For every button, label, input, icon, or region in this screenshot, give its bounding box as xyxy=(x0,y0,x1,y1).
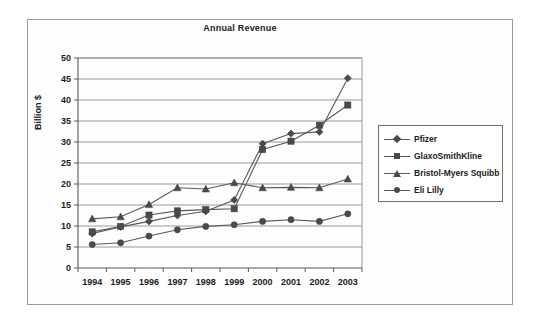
legend-item-eli-lilly[interactable]: Eli Lilly xyxy=(384,183,444,197)
y-tick-labels: 05101520253035404550 xyxy=(61,53,71,273)
x-tick-label: 1997 xyxy=(167,277,187,287)
x-tick-label: 2003 xyxy=(338,277,358,287)
data-point xyxy=(316,218,322,224)
series-eli-lilly xyxy=(89,211,351,248)
data-point xyxy=(260,146,266,152)
data-point xyxy=(203,207,209,213)
data-point xyxy=(174,208,180,214)
legend-item-glaxosmithkline[interactable]: GlaxoSmithKline xyxy=(384,149,482,163)
legend-label: Pfizer xyxy=(414,134,437,144)
x-tick-labels: 1994199519961997199819992000200120022003 xyxy=(82,277,358,287)
data-point xyxy=(287,130,294,137)
diamond-marker-icon xyxy=(384,133,410,145)
data-point xyxy=(345,211,351,217)
y-tick-label: 20 xyxy=(61,179,71,189)
y-tick-label: 30 xyxy=(61,137,71,147)
y-tick-label: 40 xyxy=(61,95,71,105)
x-tick-label: 2000 xyxy=(253,277,273,287)
x-tick-label: 1995 xyxy=(111,277,131,287)
y-tick-label: 45 xyxy=(61,74,71,84)
y-tick-label: 0 xyxy=(66,263,71,273)
series-line xyxy=(92,179,348,219)
data-point xyxy=(316,128,323,135)
data-point xyxy=(288,138,294,144)
y-tick-label: 50 xyxy=(61,53,71,63)
series-line xyxy=(92,214,348,245)
series-line xyxy=(92,78,348,233)
data-point xyxy=(259,140,266,147)
series-pfizer xyxy=(89,75,352,238)
data-point xyxy=(345,102,351,108)
x-tick-label: 1996 xyxy=(139,277,159,287)
triangle-marker-icon xyxy=(384,167,410,179)
data-point xyxy=(231,222,237,228)
series-glaxosmithkline xyxy=(89,102,351,235)
legend-item-bristol-myers-squibb[interactable]: Bristol-Myers Squibb xyxy=(384,166,499,180)
data-point xyxy=(231,206,237,212)
data-point xyxy=(231,179,238,186)
y-tick-label: 25 xyxy=(61,158,71,168)
data-point xyxy=(117,213,124,220)
axis-ticks xyxy=(74,58,362,272)
series-bristol-myers-squibb xyxy=(89,175,352,222)
data-point xyxy=(260,218,266,224)
data-series xyxy=(89,75,352,248)
legend: PfizerGlaxoSmithKlineBristol-Myers Squib… xyxy=(378,125,503,202)
x-tick-label: 1994 xyxy=(82,277,102,287)
data-point xyxy=(288,217,294,223)
legend-item-pfizer[interactable]: Pfizer xyxy=(384,132,437,146)
circle-marker-icon xyxy=(384,184,410,196)
x-tick-label: 1999 xyxy=(224,277,244,287)
legend-label: Eli Lilly xyxy=(414,185,444,195)
data-point xyxy=(89,241,95,247)
data-point xyxy=(344,175,351,182)
x-tick-label: 2002 xyxy=(309,277,329,287)
data-point xyxy=(344,75,351,82)
data-point xyxy=(89,229,95,235)
square-marker-icon xyxy=(384,150,410,162)
data-point xyxy=(118,223,124,229)
data-point xyxy=(145,218,152,225)
data-point xyxy=(118,240,124,246)
data-point xyxy=(316,122,322,128)
legend-label: GlaxoSmithKline xyxy=(414,151,482,161)
x-tick-label: 2001 xyxy=(281,277,301,287)
chart-figure: Annual Revenue Billion $ 051015202530354… xyxy=(0,0,538,321)
y-tick-label: 10 xyxy=(61,221,71,231)
y-tick-label: 15 xyxy=(61,200,71,210)
data-point xyxy=(174,227,180,233)
x-tick-label: 1998 xyxy=(196,277,216,287)
y-tick-label: 35 xyxy=(61,116,71,126)
legend-label: Bristol-Myers Squibb xyxy=(414,168,499,178)
data-point xyxy=(146,233,152,239)
data-point xyxy=(203,223,209,229)
y-tick-label: 5 xyxy=(66,242,71,252)
data-point xyxy=(146,212,152,218)
data-point xyxy=(145,201,152,208)
